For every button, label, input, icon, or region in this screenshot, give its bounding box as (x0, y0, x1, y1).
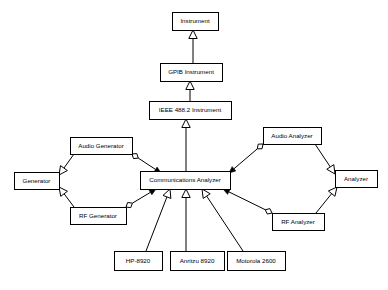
class-box-label: HP-8920 (126, 257, 151, 264)
edge-line (229, 192, 265, 210)
class-box-label: Communications Analyzer (149, 176, 221, 183)
edge-gpib-to-instrument (189, 30, 197, 63)
class-box-instrument[interactable]: Instrument (173, 13, 219, 31)
generalization-arrowhead (59, 166, 67, 175)
class-box-rfgen[interactable]: RF Generator (71, 208, 127, 225)
aggregation-diamond (257, 144, 263, 149)
edge-hp8920-to-comms (146, 189, 171, 251)
class-box-audioanalyzer[interactable]: Audio Analyzer (264, 128, 322, 145)
class-box-anritzu8920[interactable]: Anritzu 8920 (171, 252, 225, 271)
edge-comms-to-ieee (182, 119, 190, 171)
class-box-label: Audio Generator (78, 142, 123, 149)
edge-audioanalyzer-to-analyzer (315, 144, 335, 174)
class-box-label: GPIB Instrument (168, 68, 214, 75)
edge-rfanalyzer-to-analyzer (316, 187, 337, 213)
edge-rfgen-to-comms (126, 189, 156, 208)
generalization-arrowhead (202, 189, 210, 198)
edge-line (207, 196, 243, 251)
edge-line (64, 154, 74, 168)
edge-line (132, 192, 150, 203)
aggregation-diamond (265, 209, 272, 214)
uml-class-diagram: InstrumentGPIB InstrumentIEEE 488.2 Inst… (0, 0, 388, 290)
class-box-label: Instrument (180, 17, 210, 24)
edge-audiogen-to-generator (59, 154, 74, 175)
edge-audiogen-to-comms (132, 154, 161, 173)
generalization-arrowhead (327, 165, 335, 174)
class-box-label: Audio Analyzer (271, 132, 312, 139)
generalization-arrowhead (328, 187, 337, 196)
class-box-label: Motorola 2600 (236, 257, 276, 264)
generalization-arrowhead (182, 189, 190, 198)
edge-ieee-to-gpib (186, 81, 194, 101)
class-box-ieee[interactable]: IEEE 488.2 Instrument (150, 102, 232, 120)
class-box-generator[interactable]: Generator (15, 173, 60, 190)
class-box-gpib[interactable]: GPIB Instrument (161, 64, 223, 82)
edge-audioanalyzer-to-comms (229, 144, 263, 173)
diagram-canvas: InstrumentGPIB InstrumentIEEE 488.2 Inst… (0, 0, 388, 290)
edge-line (315, 144, 330, 167)
edge-line (146, 197, 167, 251)
edge-anritzu8920-to-comms (182, 189, 190, 251)
class-box-audiogen[interactable]: Audio Generator (71, 138, 133, 155)
class-box-rfanalyzer[interactable]: RF Analyzer (273, 214, 325, 231)
generalization-arrowhead (186, 81, 194, 90)
generalization-arrowhead (189, 30, 197, 39)
edge-line (64, 194, 74, 207)
edge-rfanalyzer-to-comms (223, 189, 272, 214)
aggregation-diamond (126, 203, 132, 208)
class-box-label: Anritzu 8920 (180, 257, 215, 264)
generalization-arrowhead (163, 189, 171, 198)
nodes-layer: InstrumentGPIB InstrumentIEEE 488.2 Inst… (15, 13, 378, 271)
edge-line (138, 158, 155, 169)
edge-motorola2600-to-comms (202, 189, 243, 251)
class-box-label: Generator (23, 177, 51, 184)
class-box-label: Analyzer (344, 175, 368, 182)
class-box-label: RF Analyzer (281, 218, 315, 225)
class-box-hp8920[interactable]: HP-8920 (115, 252, 163, 271)
class-box-label: IEEE 488.2 Instrument (159, 106, 222, 113)
class-box-label: RF Generator (79, 212, 117, 219)
edge-rfgen-to-generator (59, 187, 74, 207)
generalization-arrowhead (182, 119, 190, 128)
generalization-arrowhead (59, 187, 67, 196)
edge-line (234, 149, 257, 169)
class-box-comms[interactable]: Communications Analyzer (141, 172, 231, 190)
edge-line (316, 194, 332, 213)
class-box-analyzer[interactable]: Analyzer (336, 171, 378, 188)
class-box-motorola2600[interactable]: Motorola 2600 (228, 252, 286, 271)
